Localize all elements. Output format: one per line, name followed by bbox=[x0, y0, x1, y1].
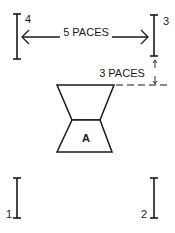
marker-4 bbox=[13, 14, 21, 59]
marker-2-label: 2 bbox=[141, 208, 147, 220]
marker-1-label: 1 bbox=[6, 208, 12, 220]
marker-1 bbox=[13, 178, 21, 218]
marker-3-label: 3 bbox=[163, 15, 169, 27]
vertical-distance-arrow bbox=[153, 60, 157, 84]
marker-4-label: 4 bbox=[25, 13, 31, 25]
diagram-canvas: 4 3 5 PACES 3 PACES A 1 2 bbox=[0, 0, 175, 233]
marker-3 bbox=[150, 15, 158, 56]
position-a-label: A bbox=[82, 132, 90, 144]
horizontal-distance-label: 5 PACES bbox=[63, 26, 109, 38]
marker-2 bbox=[150, 178, 158, 218]
vertical-distance-label: 3 PACES bbox=[99, 67, 145, 79]
